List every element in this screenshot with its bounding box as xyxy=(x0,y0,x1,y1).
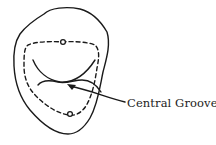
central-groove-label: Central Groove xyxy=(127,96,216,110)
inner-ridge-curve xyxy=(33,60,95,82)
tooth-diagram xyxy=(0,0,216,145)
dashed-inner-outline xyxy=(24,42,99,116)
pit-circle-top xyxy=(61,40,66,45)
outer-outline xyxy=(14,8,109,134)
pit-circle-bottom xyxy=(68,112,73,117)
